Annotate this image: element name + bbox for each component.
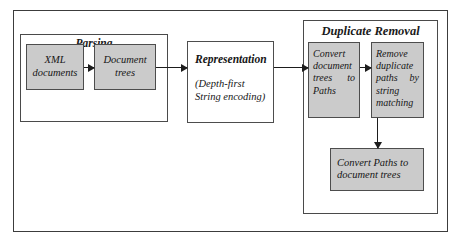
node-remove-duplicate-paths[interactable]: Remove duplicate paths by string matchin… — [371, 42, 424, 118]
node-representation-text: Representation (Depth-first String encod… — [188, 52, 273, 104]
node-document-trees-line1: Document — [103, 54, 146, 65]
node-remove-duplicate-paths-line5: matching — [376, 97, 419, 109]
node-remove-duplicate-paths-line2: duplicate — [376, 60, 419, 72]
node-convert-paths-to-trees-line2: document trees — [337, 170, 417, 183]
arrow-xml-to-document-trees — [84, 67, 94, 68]
arrow-convert-to-remove — [360, 67, 371, 68]
node-xml-documents[interactable]: XML documents — [26, 44, 84, 90]
node-remove-duplicate-paths-line3: paths by — [376, 72, 419, 84]
arrow-document-trees-to-representation — [156, 67, 187, 68]
node-representation-subline-2: String encoding) — [195, 91, 266, 104]
node-document-trees[interactable]: Document trees — [94, 44, 156, 90]
node-xml-documents-line1: XML — [45, 54, 66, 65]
node-convert-trees-to-paths[interactable]: Convert document trees to Paths — [308, 42, 360, 118]
node-document-trees-text: Document trees — [95, 54, 155, 80]
node-representation[interactable]: Representation (Depth-first String encod… — [187, 41, 274, 123]
node-convert-paths-to-trees-line1: Convert Paths to — [337, 157, 417, 170]
node-remove-duplicate-paths-text: Remove duplicate paths by string matchin… — [372, 48, 423, 109]
arrow-representation-to-convert — [274, 67, 308, 68]
node-convert-trees-to-paths-line2: document — [313, 60, 355, 72]
node-convert-trees-to-paths-line1: Convert — [313, 48, 355, 60]
node-convert-paths-to-trees[interactable]: Convert Paths to document trees — [330, 148, 424, 191]
node-convert-trees-to-paths-text: Convert document trees to Paths — [309, 48, 359, 97]
node-document-trees-line2: trees — [115, 67, 135, 78]
node-xml-documents-line2: documents — [33, 67, 78, 78]
node-convert-paths-to-trees-text: Convert Paths to document trees — [331, 157, 423, 183]
node-convert-trees-to-paths-line3: trees to — [313, 72, 355, 84]
group-duplicate-removal-label: Duplicate Removal — [303, 24, 438, 39]
node-remove-duplicate-paths-line1: Remove — [376, 48, 419, 60]
node-xml-documents-text: XML documents — [27, 54, 83, 80]
node-convert-trees-to-paths-line4: Paths — [313, 85, 355, 97]
node-representation-subline-1: (Depth-first — [195, 78, 266, 91]
node-representation-heading: Representation — [195, 52, 266, 66]
node-remove-duplicate-paths-line4: string — [376, 85, 419, 97]
pipeline-diagram: Parsing Duplicate Removal XML documents … — [0, 0, 459, 247]
arrow-remove-to-convert-paths — [377, 118, 378, 148]
